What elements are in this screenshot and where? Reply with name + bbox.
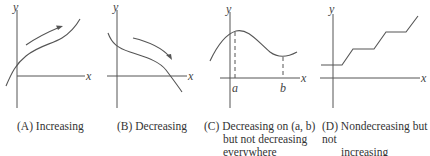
x-axis-label: x <box>420 71 427 85</box>
step-curve <box>321 16 418 65</box>
increasing-arrow <box>26 27 60 45</box>
arrowhead-icon <box>166 54 172 60</box>
y-axis-label: y <box>225 2 232 16</box>
x-axis-label: x <box>187 69 194 83</box>
panel-b-decreasing-graph: y x <box>107 0 194 108</box>
caption-a: (A) Increasing <box>17 120 84 133</box>
decreasing-arrow <box>133 38 170 57</box>
x-axis-label: x <box>85 69 92 83</box>
caption-d: (D) Nondecreasing but not increasing <box>322 120 430 156</box>
panel-c-graph: y x a b <box>210 2 307 108</box>
y-axis-label: y <box>328 2 335 16</box>
panel-d-nondecreasing-graph: y x <box>320 2 427 108</box>
tick-label-b: b <box>280 81 286 95</box>
x-axis-label: x <box>300 71 307 85</box>
y-axis-label: y <box>112 0 119 14</box>
caption-b: (B) Decreasing <box>117 120 187 133</box>
arrowhead-icon <box>56 26 63 31</box>
function-curve <box>210 31 297 61</box>
caption-c: (C) Decreasing on (a, b) but not decreas… <box>204 120 324 156</box>
tick-label-a: a <box>232 81 238 95</box>
panel-a-increasing-graph: y x <box>6 0 92 108</box>
y-axis-label: y <box>12 0 19 14</box>
